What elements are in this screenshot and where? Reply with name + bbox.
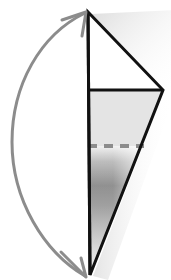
vertical-axis-edge <box>88 12 90 275</box>
double-headed-curved-arrow <box>12 12 86 277</box>
figure-container: Funnel cross-section with sediment gradi… <box>0 0 171 280</box>
diagram-canvas <box>0 0 171 280</box>
curved-arrow-shaft <box>12 13 85 276</box>
curved-arrow-head-bottom <box>61 252 86 277</box>
